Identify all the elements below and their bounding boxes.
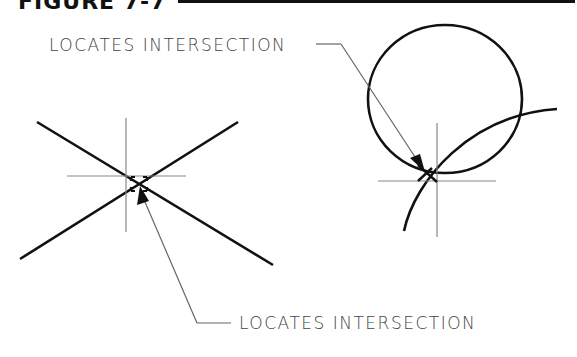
intersecting-lines-diagram [20, 118, 273, 323]
circle [368, 25, 522, 173]
line-b [20, 122, 238, 259]
circle-arc-diagram [316, 25, 557, 237]
diagram-canvas [0, 0, 577, 357]
line-a [37, 122, 273, 265]
